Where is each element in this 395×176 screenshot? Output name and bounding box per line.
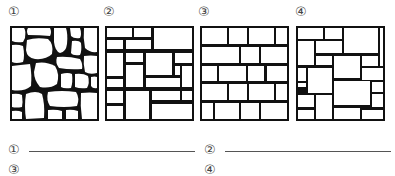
answer-field-1[interactable] xyxy=(29,151,195,152)
coursed-ashlar-pattern-icon xyxy=(200,26,289,121)
answer-label-2: ② xyxy=(204,143,216,157)
random-ashlar-pattern-icon xyxy=(296,26,385,121)
masonry-figure-4 xyxy=(296,26,385,121)
rubble-pattern-icon xyxy=(10,26,99,121)
figure-label-4: ④ xyxy=(295,5,307,19)
masonry-figure-2 xyxy=(105,26,194,121)
masonry-figure-1 xyxy=(10,26,99,121)
answer-label-3: ③ xyxy=(8,163,20,176)
masonry-figure-3 xyxy=(200,26,289,121)
answer-field-2[interactable] xyxy=(225,151,391,152)
figure-label-2: ② xyxy=(103,5,115,19)
irregular-coursed-pattern-icon xyxy=(105,26,194,121)
figure-label-1: ① xyxy=(8,5,20,19)
answer-label-4: ④ xyxy=(204,163,216,176)
figure-label-3: ③ xyxy=(198,5,210,19)
answer-label-1: ① xyxy=(8,143,20,157)
